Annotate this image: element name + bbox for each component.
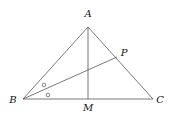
segment-AC [88, 27, 153, 99]
label-A: A [83, 8, 91, 19]
angle-mark-circle-lower [46, 93, 50, 97]
segment-BP [23, 57, 117, 99]
segment-AB [23, 27, 88, 99]
label-M: M [82, 102, 94, 113]
angle-mark-circle-upper [42, 83, 46, 87]
label-B: B [8, 94, 16, 105]
label-C: C [156, 94, 164, 105]
label-P: P [120, 47, 128, 58]
triangle-diagram: A B C M P [0, 0, 171, 115]
